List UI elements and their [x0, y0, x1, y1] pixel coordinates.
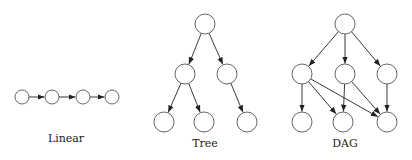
graph-node	[45, 90, 59, 104]
edge-arrow	[352, 82, 381, 115]
graph-node	[105, 90, 119, 104]
linear-caption: Linear	[48, 132, 84, 145]
graph-node	[76, 90, 90, 104]
graph-node	[377, 112, 397, 132]
edge-arrow	[209, 33, 223, 64]
dag-graph	[292, 14, 397, 132]
edge-arrow	[189, 33, 201, 64]
tree-graph	[154, 14, 257, 132]
graph-node	[15, 90, 29, 104]
edge-arrow	[189, 83, 200, 112]
edge-arrow	[308, 82, 336, 114]
edge-arrow	[309, 32, 339, 66]
graph-node	[175, 64, 195, 84]
graph-node	[217, 64, 237, 84]
graph-node	[377, 64, 397, 84]
graph-node	[195, 14, 215, 34]
graph-node	[292, 64, 312, 84]
edge-arrow	[351, 32, 380, 66]
graph-node	[237, 112, 257, 132]
graph-node	[292, 112, 312, 132]
graph-node	[154, 112, 174, 132]
graph-node	[194, 112, 214, 132]
graph-node	[335, 64, 355, 84]
tree-caption: Tree	[192, 137, 218, 150]
graph-node	[335, 14, 355, 34]
edge-arrow	[343, 84, 344, 112]
edge-arrow	[168, 83, 181, 112]
linear-graph	[15, 90, 119, 104]
graph-node	[333, 112, 353, 132]
dag-caption: DAG	[332, 137, 358, 150]
edge-arrow	[231, 83, 243, 112]
